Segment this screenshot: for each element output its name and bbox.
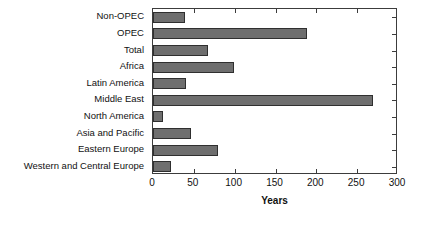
category-label-north-america: North America <box>84 108 144 124</box>
category-label-total: Total <box>124 42 144 58</box>
plot-inner <box>153 9 396 173</box>
x-axis-tick-bottom <box>276 169 277 173</box>
x-axis-tick-bottom <box>316 169 317 173</box>
x-axis-tick-top <box>316 9 317 13</box>
y-axis-tick-right <box>392 51 396 52</box>
x-axis-tick-label: 0 <box>149 177 155 188</box>
category-axis-labels: Non-OPECOPECTotalAfricaLatin AmericaMidd… <box>0 8 148 174</box>
y-axis-tick-right <box>392 84 396 85</box>
category-label-eastern-europe: Eastern Europe <box>78 141 144 157</box>
bar-total <box>153 45 208 56</box>
category-label-non-opec: Non-OPEC <box>96 8 144 24</box>
bar-western-and-central-europe <box>153 161 171 172</box>
bar-non-opec <box>153 12 185 23</box>
category-label-asia-and-pacific: Asia and Pacific <box>76 125 144 141</box>
y-axis-tick-right <box>392 100 396 101</box>
y-axis-tick-right <box>392 134 396 135</box>
y-axis-tick-right <box>392 117 396 118</box>
y-axis-tick-right <box>392 167 396 168</box>
category-label-opec: OPEC <box>117 25 144 41</box>
category-label-western-and-central-europe: Western and Central Europe <box>24 158 144 174</box>
bar-asia-and-pacific <box>153 128 191 139</box>
bar-africa <box>153 62 234 73</box>
x-axis-tick-label: 50 <box>187 177 198 188</box>
x-axis-tick-label: 200 <box>307 177 324 188</box>
x-axis-tick-bottom <box>357 169 358 173</box>
y-axis-tick-right <box>392 17 396 18</box>
x-axis-tick-label: 150 <box>266 177 283 188</box>
y-axis-tick-right <box>392 150 396 151</box>
bar-north-america <box>153 111 163 122</box>
y-axis-tick-right <box>392 67 396 68</box>
x-axis-tick-label: 300 <box>389 177 406 188</box>
plot-area <box>152 8 397 174</box>
x-axis-title: Years <box>152 195 397 206</box>
bar-opec <box>153 28 307 39</box>
x-axis-tick-top <box>235 9 236 13</box>
bar-latin-america <box>153 78 186 89</box>
bar-eastern-europe <box>153 145 218 156</box>
x-axis-tick-bottom <box>194 169 195 173</box>
x-axis-tick-top <box>194 9 195 13</box>
category-label-latin-america: Latin America <box>86 75 144 91</box>
bar-middle-east <box>153 95 373 106</box>
y-axis-tick-right <box>392 34 396 35</box>
reserves-to-production-bar-chart: Non-OPECOPECTotalAfricaLatin AmericaMidd… <box>0 0 422 230</box>
category-label-middle-east: Middle East <box>94 91 144 107</box>
x-axis-tick-bottom <box>235 169 236 173</box>
x-axis-tick-top <box>357 9 358 13</box>
category-label-africa: Africa <box>120 58 144 74</box>
x-axis-tick-top <box>276 9 277 13</box>
x-axis-tick-label: 100 <box>225 177 242 188</box>
x-axis-tick-label: 250 <box>348 177 365 188</box>
